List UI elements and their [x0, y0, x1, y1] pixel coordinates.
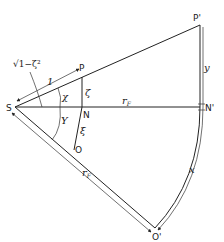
chi-arc: [58, 88, 61, 107]
x-arrow-arc: [158, 107, 203, 230]
label-o: O: [75, 145, 82, 155]
label-y: y: [203, 62, 210, 73]
label-sqrt: √1−ζ²: [13, 59, 41, 69]
label-n: N: [83, 110, 90, 120]
line-s-pprime: [15, 25, 200, 107]
label-upsilon: Υ: [61, 115, 69, 126]
label-zeta: ζ: [85, 87, 91, 98]
label-pprime: P': [193, 13, 201, 23]
label-rf-top: rF: [122, 95, 132, 107]
sqrt-leader: [30, 72, 42, 107]
label-p: P: [79, 63, 85, 73]
geometry-diagram: S P P' N N' O O' √1−ζ² 1 χ Υ ζ ξ rF rF y…: [0, 0, 224, 242]
upsilon-arc: [52, 107, 60, 140]
label-s: S: [6, 103, 12, 113]
label-unit: 1: [47, 76, 53, 87]
label-chi: χ: [61, 91, 69, 102]
label-xi: ξ: [80, 125, 86, 136]
label-x: x: [189, 164, 195, 175]
label-nprime: N': [205, 103, 214, 113]
label-oprime: O': [152, 232, 162, 242]
